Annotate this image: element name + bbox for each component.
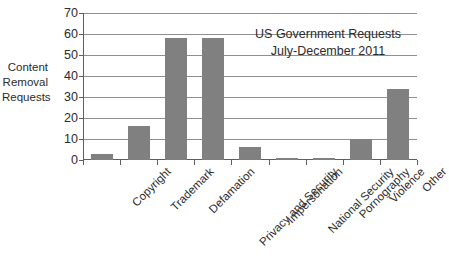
y-tick-label: 20 xyxy=(64,112,78,125)
chart-title-block: US Government Requests July-December 201… xyxy=(243,26,413,60)
x-tick-mark xyxy=(306,160,307,165)
x-tick-mark xyxy=(269,160,270,165)
x-tick-mark xyxy=(343,160,344,165)
y-tick-label: 50 xyxy=(64,49,78,62)
y-tick-label: 30 xyxy=(64,91,78,104)
y-tick-mark xyxy=(79,118,84,119)
x-tick-mark xyxy=(231,160,232,165)
x-category-label: Other xyxy=(421,166,449,194)
gridline xyxy=(83,76,417,77)
y-tick-label: 40 xyxy=(64,70,78,83)
x-tick-mark xyxy=(120,160,121,165)
y-axis-title-line-1: Content xyxy=(2,60,48,75)
y-axis-title-line-3: Requests xyxy=(2,90,48,105)
bar xyxy=(350,139,372,160)
x-tick-mark xyxy=(157,160,158,165)
y-axis-title: Content Removal Requests xyxy=(2,60,48,105)
gridline xyxy=(83,97,417,98)
y-tick-mark xyxy=(79,139,84,140)
bar xyxy=(313,158,335,160)
y-tick-mark xyxy=(79,97,84,98)
bar xyxy=(91,154,113,160)
gridline xyxy=(83,118,417,119)
y-axis-title-line-2: Removal xyxy=(2,75,48,90)
gridline xyxy=(83,13,417,14)
x-tick-mark xyxy=(380,160,381,165)
chart-title: US Government Requests xyxy=(243,26,413,43)
y-tick-label: 60 xyxy=(64,28,78,41)
y-tick-mark xyxy=(79,76,84,77)
y-tick-mark xyxy=(79,34,84,35)
bar xyxy=(202,38,224,160)
y-tick-label: 0 xyxy=(71,154,78,167)
x-tick-mark xyxy=(194,160,195,165)
bar xyxy=(165,38,187,160)
bar xyxy=(276,158,298,160)
y-tick-label: 70 xyxy=(64,7,78,20)
bar xyxy=(387,89,409,160)
bar xyxy=(128,126,150,160)
y-tick-mark xyxy=(79,55,84,56)
y-tick-mark xyxy=(79,13,84,14)
chart-subtitle: July-December 2011 xyxy=(243,43,413,60)
x-category-label: Copyright xyxy=(130,166,173,209)
x-tick-mark xyxy=(83,160,84,165)
bar xyxy=(239,147,261,160)
y-tick-label: 10 xyxy=(64,133,78,146)
